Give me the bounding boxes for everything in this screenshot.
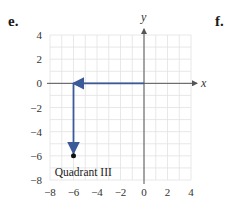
y-tick-label: −6 [30,150,42,162]
x-tick-label: 0 [141,186,147,198]
coordinate-plane: xy −8−6−4−2024420−2−4−6−8 Quadrant III [0,0,228,209]
y-tick-label: 0 [37,77,43,89]
y-tick-label: −4 [30,126,42,138]
x-axis-label: x [200,76,207,90]
y-tick-label: 2 [37,53,43,65]
annotations: Quadrant III [55,166,112,178]
x-tick-label: −4 [91,186,103,198]
x-tick-label: −8 [44,186,56,198]
y-tick-label: 4 [37,29,43,41]
y-tick-label: −2 [30,102,42,114]
y-tick-label: −8 [30,174,42,186]
axes: xy [47,10,207,184]
x-tick-label: 2 [165,186,171,198]
grid-lines [50,35,191,180]
x-tick-label: 4 [188,186,194,198]
data-points [71,153,76,158]
quadrant-label: Quadrant III [55,166,112,178]
x-tick-label: −2 [115,186,127,198]
data-point [71,153,76,158]
x-tick-label: −6 [68,186,80,198]
y-axis-label: y [140,10,147,24]
